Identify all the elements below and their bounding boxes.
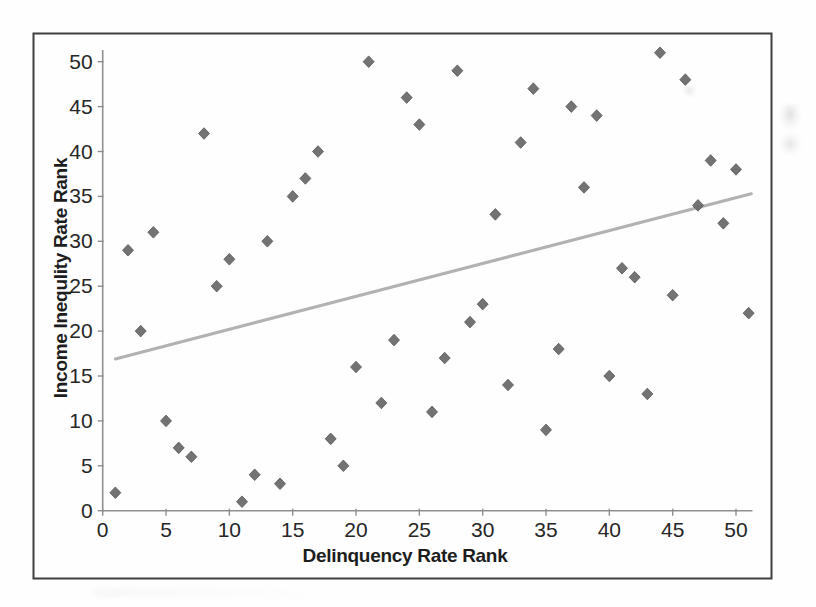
- data-point: [490, 209, 501, 221]
- y-tick-label: 20: [69, 319, 92, 342]
- x-tick-label: 40: [598, 518, 621, 541]
- x-tick-label: 50: [724, 518, 747, 541]
- y-tick-label: 40: [69, 140, 92, 163]
- y-tick-label: 5: [81, 454, 93, 477]
- figure-border: [34, 34, 772, 579]
- y-tick-label: 0: [81, 499, 93, 522]
- data-point: [718, 218, 729, 230]
- x-tick-label: 5: [160, 518, 172, 541]
- data-point: [211, 280, 222, 292]
- data-point: [300, 173, 311, 185]
- data-point: [655, 47, 666, 59]
- y-tick-label: 35: [69, 184, 92, 207]
- y-tick-label: 45: [69, 95, 92, 118]
- data-point: [629, 271, 640, 283]
- data-point: [199, 128, 210, 140]
- data-point: [249, 469, 260, 481]
- trend-line: [115, 194, 751, 359]
- data-point: [515, 137, 526, 149]
- x-tick-label: 0: [97, 518, 109, 541]
- data-point: [731, 164, 742, 176]
- x-tick-label: 20: [344, 518, 367, 541]
- data-point: [705, 155, 716, 167]
- y-axis-title-text: Income Inequlity Rate Rank: [50, 158, 72, 398]
- data-point: [579, 182, 590, 194]
- data-point: [161, 415, 172, 427]
- data-point: [541, 424, 552, 436]
- data-point: [604, 370, 615, 382]
- x-tick-label: 30: [471, 518, 494, 541]
- data-point: [110, 487, 121, 499]
- x-tick-label: 25: [408, 518, 431, 541]
- data-point: [123, 244, 134, 256]
- y-tick-label: 25: [69, 274, 92, 297]
- data-point: [363, 56, 374, 68]
- data-point: [477, 298, 488, 310]
- y-tick-label: 10: [69, 409, 92, 432]
- data-point: [452, 65, 463, 77]
- data-point: [135, 325, 146, 337]
- x-axis-title: Delinquency Rate Rank: [81, 545, 729, 567]
- data-point: [224, 253, 235, 265]
- data-point: [338, 460, 349, 472]
- data-point: [528, 83, 539, 95]
- x-tick-label: 15: [281, 518, 304, 541]
- data-point: [617, 262, 628, 274]
- y-tick-label: 30: [69, 229, 92, 252]
- data-point: [287, 191, 298, 203]
- data-point: [553, 343, 564, 355]
- data-point: [642, 388, 653, 400]
- data-point: [465, 316, 476, 328]
- data-point: [237, 496, 248, 508]
- data-point: [503, 379, 514, 391]
- data-point: [173, 442, 184, 454]
- data-point: [389, 334, 400, 346]
- scatter-plot: 0510152025303540455005101520253035404550: [0, 0, 816, 607]
- x-tick-label: 35: [534, 518, 557, 541]
- x-tick-label: 45: [661, 518, 684, 541]
- scanned-chart-page: 0510152025303540455005101520253035404550…: [0, 0, 816, 607]
- y-tick-label: 15: [69, 364, 92, 387]
- data-point: [680, 74, 691, 86]
- x-tick-label: 10: [218, 518, 241, 541]
- data-point: [376, 397, 387, 409]
- data-point: [313, 146, 324, 158]
- data-point: [566, 101, 577, 113]
- data-point: [427, 406, 438, 418]
- data-point: [667, 289, 678, 301]
- y-tick-label: 50: [69, 50, 92, 73]
- data-point: [439, 352, 450, 364]
- data-point: [351, 361, 362, 373]
- data-point: [401, 92, 412, 104]
- data-point: [275, 478, 286, 490]
- data-point: [591, 110, 602, 122]
- data-point: [325, 433, 336, 445]
- data-point: [743, 307, 754, 319]
- data-point: [262, 236, 273, 248]
- data-point: [148, 227, 159, 239]
- data-point: [414, 119, 425, 131]
- data-point: [186, 451, 197, 463]
